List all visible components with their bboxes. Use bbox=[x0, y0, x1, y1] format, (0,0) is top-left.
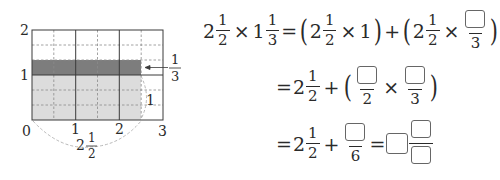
term2-whole: 2 bbox=[413, 20, 425, 42]
term1-fraction: 12 bbox=[323, 13, 337, 48]
answer-box[interactable] bbox=[405, 66, 425, 84]
lhs-whole-1: 2 bbox=[203, 20, 215, 42]
equation-line-2: = 2 12 + ( 2 × 3 ) bbox=[276, 66, 440, 107]
times-sign: × bbox=[340, 20, 356, 42]
close-paren: ) bbox=[430, 72, 438, 102]
open-paren: ( bbox=[344, 72, 352, 102]
close-paren: ) bbox=[373, 16, 381, 46]
blank-fraction-over-3: 3 bbox=[463, 10, 487, 51]
blank-fraction-over-6: 6 bbox=[343, 123, 367, 164]
blank-fraction-over-3: 3 bbox=[403, 66, 427, 107]
answer-box[interactable] bbox=[345, 123, 365, 141]
plus-sign: + bbox=[384, 20, 400, 42]
equation-line-3: = 2 12 + 6 = bbox=[276, 120, 434, 167]
plus-sign: + bbox=[324, 76, 340, 98]
term1-whole: 2 bbox=[310, 20, 322, 42]
mixed-whole: 2 bbox=[293, 133, 305, 155]
answer-box-denominator[interactable] bbox=[411, 146, 431, 164]
times-sign: × bbox=[383, 76, 399, 98]
blank-fraction-over-2: 2 bbox=[355, 66, 379, 107]
mixed-fraction: 12 bbox=[306, 126, 320, 161]
mixed-whole: 2 bbox=[293, 76, 305, 98]
mixed-fraction: 12 bbox=[306, 69, 320, 104]
equals-sign: = bbox=[276, 133, 292, 155]
equals-sign: = bbox=[276, 76, 292, 98]
answer-fraction bbox=[409, 120, 433, 167]
answer-box-numerator[interactable] bbox=[411, 120, 431, 138]
times-sign: × bbox=[234, 20, 250, 42]
plus-sign: + bbox=[324, 133, 340, 155]
equals-sign: = bbox=[369, 133, 385, 155]
equals-sign: = bbox=[281, 20, 297, 42]
answer-box[interactable] bbox=[465, 10, 485, 28]
term2-fraction: 12 bbox=[426, 13, 440, 48]
close-paren: ) bbox=[490, 16, 498, 46]
lhs-whole-2: 1 bbox=[253, 20, 265, 42]
answer-box-whole[interactable] bbox=[386, 133, 408, 154]
lhs-fraction-1: 12 bbox=[216, 13, 230, 48]
lhs-fraction-2: 13 bbox=[266, 13, 280, 48]
open-paren: ( bbox=[300, 16, 308, 46]
times-sign: × bbox=[444, 20, 460, 42]
open-paren: ( bbox=[403, 16, 411, 46]
equation-line-1: 2 12 × 1 13 = ( 2 12 × 1 ) + ( 2 12 × 3 … bbox=[203, 10, 500, 51]
answer-box[interactable] bbox=[357, 66, 377, 84]
term1-factor: 1 bbox=[359, 20, 371, 42]
